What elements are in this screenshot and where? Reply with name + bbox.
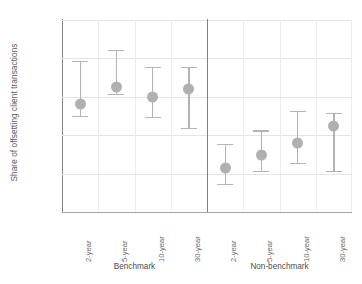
- data-marker: [111, 82, 122, 93]
- vertical-gridline: [171, 20, 172, 212]
- x-tick-label-2-year: 2-year: [229, 202, 238, 262]
- y-axis-title: Share of offsetting client transactions: [10, 13, 19, 213]
- data-marker: [220, 162, 231, 173]
- whisker-cap-lower: [108, 94, 124, 95]
- whisker-cap-lower: [72, 116, 88, 117]
- whisker-cap-upper: [290, 111, 306, 112]
- group-label-non-benchmark: Non-benchmark: [250, 262, 308, 271]
- data-marker: [183, 84, 194, 95]
- whisker-cap-upper: [253, 130, 269, 131]
- whisker-cap-lower: [290, 163, 306, 164]
- whisker-cap-lower: [181, 128, 197, 129]
- plot-right-border: [351, 20, 352, 212]
- plot-area: [62, 20, 352, 212]
- whisker-cap-upper: [108, 50, 124, 51]
- whisker-cap-upper: [72, 61, 88, 62]
- vertical-gridline: [135, 20, 136, 212]
- data-marker: [256, 150, 267, 161]
- x-tick-label-30-year: 30-year: [338, 202, 347, 262]
- vertical-gridline: [316, 20, 317, 212]
- vertical-gridline: [243, 20, 244, 212]
- x-tick-label-30-year: 30-year: [193, 202, 202, 262]
- whisker-cap-lower: [253, 171, 269, 172]
- x-tick-label-5-year: 5-year: [120, 202, 129, 262]
- data-marker: [147, 91, 158, 102]
- whisker-cap-upper: [145, 67, 161, 68]
- x-tick-label-10-year: 10-year: [157, 202, 166, 262]
- whisker-cap-upper: [217, 144, 233, 145]
- whisker-cap-upper: [181, 67, 197, 68]
- data-marker: [75, 99, 86, 110]
- x-tick-label-10-year: 10-year: [302, 202, 311, 262]
- group-divider-line: [207, 19, 208, 212]
- whisker-cap-upper: [326, 113, 342, 114]
- whisker-cap-lower: [326, 171, 342, 172]
- data-marker: [292, 137, 303, 148]
- whisker-line: [188, 67, 189, 127]
- vertical-gridline: [98, 20, 99, 212]
- vertical-gridline: [280, 20, 281, 212]
- error-bar-chart: Share of offsetting client transactions …: [0, 0, 362, 284]
- whisker-cap-lower: [217, 184, 233, 185]
- x-tick-label-5-year: 5-year: [265, 202, 274, 262]
- group-label-benchmark: Benchmark: [114, 262, 155, 271]
- whisker-cap-lower: [145, 117, 161, 118]
- x-tick-label-2-year: 2-year: [84, 202, 93, 262]
- data-marker: [328, 120, 339, 131]
